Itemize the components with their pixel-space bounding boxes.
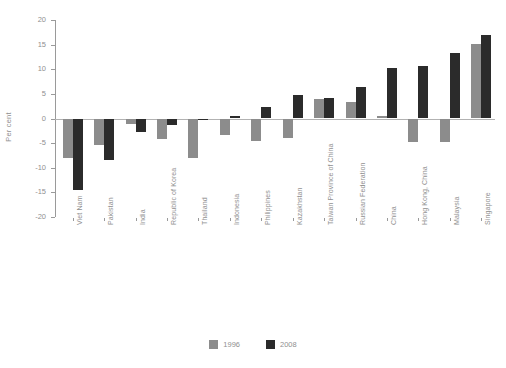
bar-group [94,20,114,217]
x-axis-label: Philippines [264,190,271,225]
x-axis-label: Taiwan Province of China [327,144,334,225]
x-tick [481,218,482,221]
plot-area: 20151050-5-10-15-20 [55,20,495,217]
y-tick: 15 [51,45,55,46]
x-axis-label: Kazakhstan [296,187,303,225]
bar-group [188,20,208,217]
y-tick-label: -20 [20,212,46,221]
x-axis-label: Viet Nam [76,196,83,225]
chart-legend: 19962008 [0,340,506,349]
bar-1996 [440,119,450,143]
y-tick: -10 [51,168,55,169]
bar-1996 [94,119,104,146]
x-axis-label: Hong Kong, China [421,166,428,225]
zero-baseline [55,119,495,120]
bar-2008 [356,87,366,118]
bar-2008 [293,95,303,118]
bar-2008 [324,98,334,119]
x-axis-label: Thailand [201,197,208,225]
x-axis-label: Pakistan [107,197,114,225]
bar-2008 [261,107,271,118]
bar-1996 [408,119,418,143]
bar-2008 [481,35,491,119]
x-tick [324,218,325,221]
bar-group [377,20,397,217]
legend-item[interactable]: 2008 [266,340,297,349]
x-axis-label: India [139,209,146,225]
legend-item[interactable]: 1996 [209,340,240,349]
y-tick-label: -10 [20,163,46,172]
x-axis-label: Indonesia [233,194,240,225]
x-tick [418,218,419,221]
y-tick-label: 20 [20,15,46,24]
x-axis-label: Russian Federation [359,163,366,226]
y-tick-label: 15 [20,40,46,49]
y-tick: 5 [51,94,55,95]
bar-2008 [104,119,114,160]
x-tick [136,218,137,221]
y-tick-label: 10 [20,64,46,73]
bar-group [251,20,271,217]
bar-1996 [377,116,387,119]
bar-2008 [136,119,146,132]
bar-1996 [188,119,198,158]
x-tick [293,218,294,221]
x-tick [104,218,105,221]
bar-group [440,20,460,217]
bar-1996 [126,119,136,125]
y-tick: 10 [51,69,55,70]
x-axis-label: Malaysia [453,197,460,225]
y-axis-title: Per cent [4,92,13,162]
bar-2008 [418,66,428,118]
bar-group [63,20,83,217]
x-axis-label: China [390,206,397,225]
chart-figure: Per cent 20151050-5-10-15-20 Viet NamPak… [0,0,506,368]
bar-1996 [157,119,167,139]
legend-label: 1996 [223,340,240,349]
bar-1996 [283,119,293,139]
x-axis-label: Singapore [484,192,491,225]
bar-2008 [450,53,460,119]
bar-group [471,20,491,217]
legend-swatch-icon [209,340,218,349]
y-tick: 0 [51,119,55,120]
x-tick [167,218,168,221]
x-axis-labels: Viet NamPakistanIndiaRepublic of KoreaTh… [55,218,495,328]
bar-2008 [167,119,177,125]
bar-1996 [251,119,261,142]
bar-1996 [346,102,356,118]
bar-2008 [73,119,83,190]
y-tick: 20 [51,20,55,21]
x-tick [356,218,357,221]
bar-1996 [220,119,230,135]
bar-group [126,20,146,217]
x-tick [73,218,74,221]
x-tick [198,218,199,221]
y-tick-label: -5 [20,138,46,147]
y-tick-label: 0 [20,114,46,123]
x-tick [261,218,262,221]
x-tick [230,218,231,221]
legend-swatch-icon [266,340,275,349]
legend-label: 2008 [280,340,297,349]
x-axis-label: Republic of Korea [170,168,177,225]
bar-group [220,20,240,217]
bar-2008 [198,119,208,120]
y-tick: -15 [51,192,55,193]
x-tick [450,218,451,221]
bar-2008 [387,68,397,118]
y-tick: -5 [51,143,55,144]
y-tick-label: 5 [20,89,46,98]
bar-1996 [471,44,481,119]
bar-1996 [63,119,73,159]
bar-2008 [230,116,240,119]
bar-1996 [314,99,324,119]
y-tick-label: -15 [20,187,46,196]
x-tick [387,218,388,221]
